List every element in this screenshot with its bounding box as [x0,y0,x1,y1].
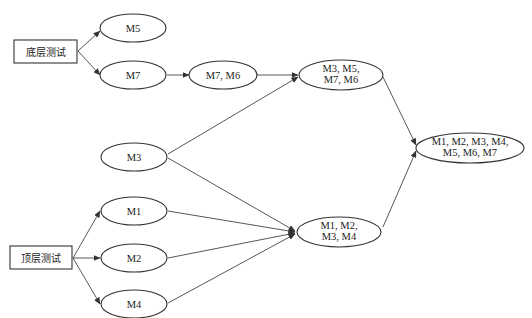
svg-text:M3: M3 [127,152,142,163]
node-m7: M7 [100,61,166,89]
svg-text:M2: M2 [127,253,142,264]
svg-text:M1, M2, M3, M4,: M1, M2, M3, M4, [432,136,509,147]
svg-text:M7: M7 [126,70,141,81]
node-all-modules: M1, M2, M3, M4, M5, M6, M7 [416,133,524,163]
node-m1-m2-m3-m4: M1, M2, M3, M4 [297,217,381,247]
bottom-test-box: 底层测试 [14,40,77,63]
svg-text:M7, M6: M7, M6 [324,74,358,85]
edge-m2-to-m1m2m3m4 [168,233,295,258]
svg-text:M4: M4 [127,299,142,310]
edge-bottom-to-m5 [78,31,100,51]
node-m4: M4 [101,290,167,318]
svg-text:M3, M4: M3, M4 [322,231,357,242]
node-m2: M2 [101,244,167,272]
top-test-box: 顶层测试 [10,246,72,269]
edge-m1m2m3m4-to-all [383,151,416,227]
node-m1: M1 [101,197,167,225]
edge-m4-to-m1m2m3m4 [168,234,295,303]
edge-bottom-to-m7 [78,51,100,75]
edge-m1-to-m1m2m3m4 [168,211,295,232]
svg-text:M5, M6, M7: M5, M6, M7 [443,147,497,158]
svg-text:M5: M5 [126,23,141,34]
svg-text:M3, M5,: M3, M5, [322,63,359,74]
node-m3-m5-m7-m6: M3, M5, M7, M6 [299,60,383,90]
edge-top-to-m1 [73,211,100,258]
integration-test-diagram: 底层测试 顶层测试 M5 M7 M7, M6 M3, M5, M7, M6 M3… [0,0,532,318]
node-m3: M3 [101,143,167,171]
svg-text:M1: M1 [127,206,142,217]
node-m5: M5 [100,14,166,42]
bottom-test-label: 底层测试 [26,46,66,58]
svg-text:M7, M6: M7, M6 [206,70,240,81]
edge-top-to-m4 [73,258,100,304]
node-m7-m6: M7, M6 [189,61,257,89]
svg-text:M1, M2,: M1, M2, [320,220,357,231]
top-test-label: 顶层测试 [21,252,61,264]
edge-m3-to-m1m2m3m4 [168,158,295,231]
edge-m3m5m7m6-to-all [383,77,416,145]
